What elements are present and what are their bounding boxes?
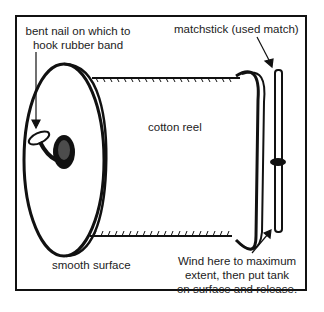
wind-label-line2: extent, then put tank xyxy=(168,268,306,282)
right-flange xyxy=(236,72,264,249)
nail-label-line2: hook rubber band xyxy=(18,38,138,52)
matchstick-arrow xyxy=(257,37,273,67)
reel-label: cotton reel xyxy=(148,120,202,134)
surface-label: smooth surface xyxy=(52,258,131,272)
wind-label-line3: on surface and release. xyxy=(168,282,306,296)
reel-body xyxy=(90,78,240,236)
wind-instruction-label: Wind here to maximum extent, then put ta… xyxy=(168,254,306,296)
nail-label-line1: bent nail on which to xyxy=(18,24,138,38)
matchstick-icon xyxy=(270,70,286,232)
wind-label-line1: Wind here to maximum xyxy=(168,254,306,268)
matchstick-label: matchstick (used match) xyxy=(174,22,299,36)
nail-label: bent nail on which to hook rubber band xyxy=(18,24,138,52)
